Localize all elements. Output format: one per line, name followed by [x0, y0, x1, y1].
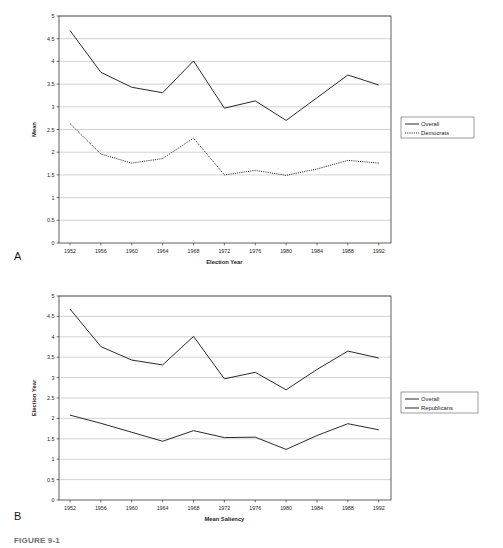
x-tick-label: 1992 [373, 248, 385, 254]
x-tick-label: 1960 [126, 248, 138, 254]
x-axis-title: Election Year [206, 259, 243, 265]
y-tick-label: 2.5 [47, 127, 55, 133]
panel-b-letter: B [14, 510, 22, 522]
x-tick-label: 1976 [249, 505, 261, 511]
x-axis-title: Mean Saliency [204, 516, 245, 522]
legend-label-overall: Overall [421, 121, 439, 127]
y-tick-label: 1.5 [47, 172, 55, 178]
chart-a-plot: 00.511.522.533.544.551952195619601964196… [0, 0, 503, 278]
figure-container: 00.511.522.533.544.551952195619601964196… [0, 0, 503, 548]
x-tick-label: 1972 [218, 248, 230, 254]
y-tick-label: 2.5 [47, 395, 55, 401]
y-tick-label: 0 [52, 240, 55, 246]
y-axis-title: Mean [31, 122, 37, 137]
x-tick-label: 1964 [157, 505, 169, 511]
y-tick-label: 3.5 [47, 81, 55, 87]
x-tick-label: 1968 [188, 248, 200, 254]
y-tick-label: 4 [52, 58, 55, 64]
x-tick-label: 1984 [311, 248, 323, 254]
x-tick-label: 1992 [373, 505, 385, 511]
x-tick-label: 1956 [95, 505, 107, 511]
x-tick-label: 1956 [95, 248, 107, 254]
x-tick-label: 1968 [188, 505, 200, 511]
y-tick-label: 5 [52, 13, 55, 19]
y-tick-label: 1 [52, 456, 55, 462]
y-tick-label: 0 [52, 497, 55, 503]
y-tick-label: 1 [52, 195, 55, 201]
y-tick-label: 1.5 [47, 436, 55, 442]
panel-a-letter: A [14, 250, 22, 262]
x-tick-label: 1952 [64, 248, 76, 254]
legend-label-democrats: Democrats [421, 130, 449, 136]
y-tick-label: 5 [52, 293, 55, 299]
y-tick-label: 2 [52, 415, 55, 421]
x-tick-label: 1972 [218, 505, 230, 511]
y-tick-label: 4 [52, 334, 55, 340]
chart-panel-b: 00.511.522.533.544.551952195619601964196… [0, 278, 503, 536]
x-tick-label: 1988 [342, 505, 354, 511]
figure-caption: FIGURE 9-1 [14, 536, 60, 548]
y-tick-label: 0.5 [47, 217, 55, 223]
x-tick-label: 1960 [126, 505, 138, 511]
y-tick-label: 3.5 [47, 354, 55, 360]
x-tick-label: 1984 [311, 505, 323, 511]
y-tick-label: 4.5 [47, 313, 55, 319]
y-tick-label: 3 [52, 104, 55, 110]
legend-label-republicans: Republicans [421, 405, 453, 411]
x-tick-label: 1976 [249, 248, 261, 254]
series-line-republicans [70, 415, 379, 449]
series-line-democrats [70, 124, 379, 176]
legend-label-overall: Overall [421, 396, 439, 402]
chart-b-plot: 00.511.522.533.544.551952195619601964196… [0, 278, 503, 536]
x-tick-label: 1980 [280, 248, 292, 254]
x-tick-label: 1964 [157, 248, 169, 254]
x-tick-label: 1988 [342, 248, 354, 254]
x-tick-label: 1952 [64, 505, 76, 511]
y-tick-label: 4.5 [47, 36, 55, 42]
y-tick-label: 3 [52, 375, 55, 381]
y-axis-title: Election Year [31, 379, 37, 416]
y-tick-label: 2 [52, 149, 55, 155]
y-tick-label: 0.5 [47, 477, 55, 483]
chart-panel-a: 00.511.522.533.544.551952195619601964196… [0, 0, 503, 278]
x-tick-label: 1980 [280, 505, 292, 511]
